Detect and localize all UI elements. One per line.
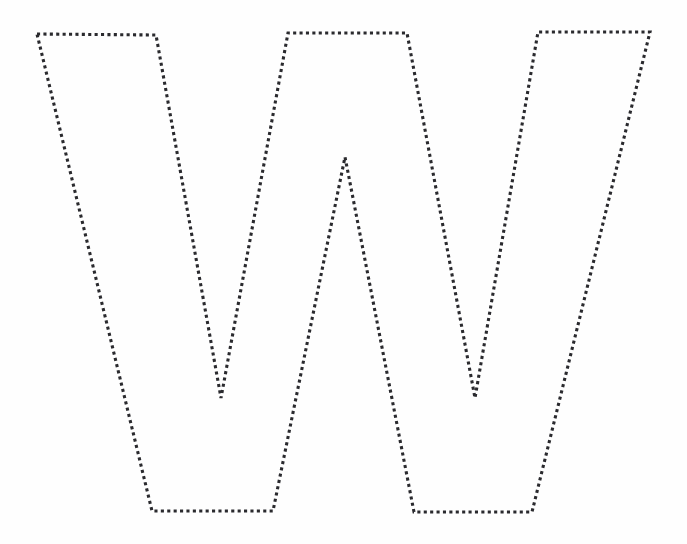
letter-w-outline-svg bbox=[0, 0, 687, 544]
worksheet-canvas bbox=[0, 0, 687, 544]
letter-w-dotted-path bbox=[37, 32, 650, 512]
